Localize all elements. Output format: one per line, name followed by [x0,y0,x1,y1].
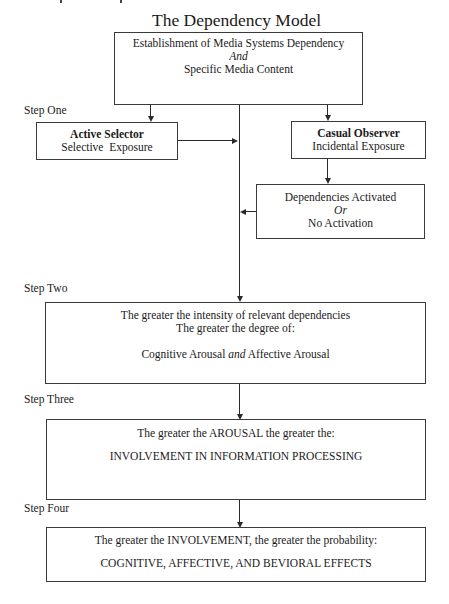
top-box-line3: Specific Media Content [115,63,362,76]
cropped-text-fragment [60,0,62,3]
step-three-label: Step Three [24,393,74,405]
connector-line [239,500,240,522]
step-four-box: The greater the INVOLVEMENT, the greater… [46,527,426,582]
connector-line [178,140,232,141]
and-text: and [228,348,245,360]
step-four-label: Step Four [24,502,69,514]
step-four-line1: The greater the INVOLVEMENT, the greater… [47,534,425,547]
step-two-line1: The greater the intensity of relevant de… [46,309,425,322]
connector-line [150,105,151,116]
top-box-line2: And [115,50,362,63]
casual-observer-box: Casual Observer Incidental Exposure [291,121,426,159]
connector-line [246,211,256,212]
diagram-title: The Dependency Model [0,10,449,30]
dependencies-line3: No Activation [257,217,424,230]
step-two-line2: The greater the degree of: [46,322,425,335]
connector-line [327,159,328,178]
casual-observer-sub: Incidental Exposure [292,140,425,153]
cognitive-arousal-text: Cognitive Arousal [141,348,228,360]
connector-line [327,105,328,115]
arrow-right-icon [232,138,238,144]
step-three-line1: The greater the AROUSAL the greater the: [47,427,425,440]
active-selector-sub: Selective Exposure [37,141,177,154]
arrow-left-icon [240,209,246,215]
step-two-box: The greater the intensity of relevant de… [45,302,426,384]
dependencies-activated-box: Dependencies Activated Or No Activation [256,184,425,239]
step-one-label: Step One [24,104,66,116]
central-flow-line [239,105,240,296]
affective-arousal-text: Affective Arousal [246,348,330,360]
cropped-text-fragment [120,0,122,3]
dependencies-line2: Or [257,204,424,217]
active-selector-heading: Active Selector [37,128,177,141]
top-box-line1: Establishment of Media Systems Dependenc… [115,37,362,50]
casual-observer-heading: Casual Observer [292,127,425,140]
step-two-line3: Cognitive Arousal and Affective Arousal [46,348,425,361]
media-dependency-box: Establishment of Media Systems Dependenc… [114,32,363,105]
step-two-label: Step Two [24,282,67,294]
dependencies-line1: Dependencies Activated [257,191,424,204]
step-three-box: The greater the AROUSAL the greater the:… [46,419,426,500]
active-selector-box: Active Selector Selective Exposure [36,122,178,160]
step-four-line2: COGNITIVE, AFFECTIVE, AND BEVIORAL EFFEC… [47,557,425,570]
step-three-line2: INVOLVEMENT IN INFORMATION PROCESSING [47,450,425,463]
connector-line [239,384,240,414]
